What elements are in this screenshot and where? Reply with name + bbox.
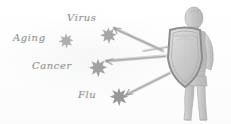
illustration-canvas: immunity Virus Aging Cancer Flu	[0, 0, 231, 124]
germ-aging	[57, 32, 75, 50]
label-aging: Aging	[13, 32, 46, 43]
shield-label: immunity	[172, 33, 198, 38]
germ-cancer	[88, 58, 108, 78]
germ-virus	[99, 26, 118, 45]
label-virus: Virus	[67, 12, 97, 23]
germ-flu	[109, 87, 129, 107]
label-flu: Flu	[78, 89, 96, 100]
label-cancer: Cancer	[32, 60, 72, 71]
